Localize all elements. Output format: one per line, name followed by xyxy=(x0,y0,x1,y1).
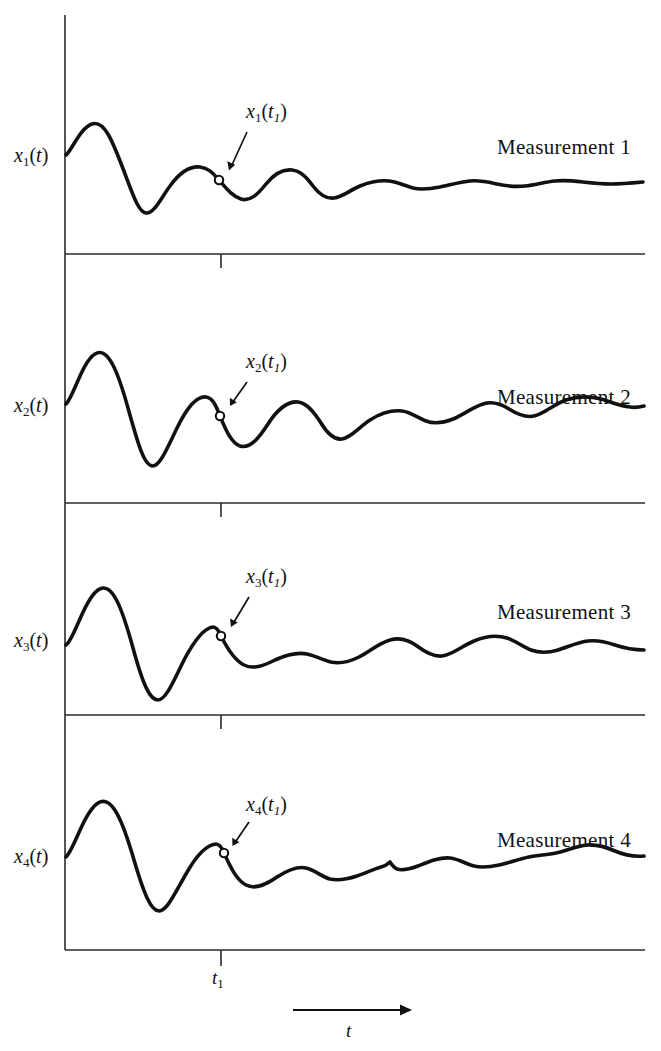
y-axis-label-4-base: x xyxy=(14,845,23,867)
y-axis-label-1-base: x xyxy=(14,144,23,166)
annotation-label-3: x3(t1) xyxy=(246,565,287,591)
annotation-label-1: x1(t1) xyxy=(246,100,287,126)
measurement-label-4: Measurement 4 xyxy=(497,828,631,853)
panel-measurement-4 xyxy=(65,801,645,966)
t1-tick-label: t1 xyxy=(212,967,224,992)
annotation-arrowhead-1 xyxy=(227,161,235,170)
measurement-label-1: Measurement 1 xyxy=(497,135,631,160)
y-axis-label-3-arg: (t) xyxy=(29,629,48,651)
annotation-arrow-3 xyxy=(234,597,250,623)
annotation-label-4-close: ) xyxy=(280,793,287,815)
time-axis-arrowhead xyxy=(400,1005,412,1016)
annotation-label-2-base: x xyxy=(246,350,255,372)
annotation-label-1-close: ) xyxy=(280,100,287,122)
annotation-label-2-close: ) xyxy=(280,350,287,372)
y-axis-label-1: x1(t) xyxy=(14,144,48,170)
annotation-arrowhead-3 xyxy=(230,618,238,627)
annotation-arrow-4 xyxy=(235,822,249,843)
t1-tick-label-sub: 1 xyxy=(217,976,224,991)
annotation-label-3-base: x xyxy=(246,565,255,587)
signal-curve-4 xyxy=(66,801,644,911)
annotation-label-4-base: x xyxy=(246,793,255,815)
annotation-arrow-1 xyxy=(232,132,248,166)
figure-root: x1(t) x1(t1) Measurement 1 x2(t) x2(t1) … xyxy=(0,0,661,1051)
y-axis-label-1-arg: (t) xyxy=(29,144,48,166)
y-axis-label-3-base: x xyxy=(14,629,23,651)
measurement-label-3: Measurement 3 xyxy=(497,600,631,625)
sample-point-marker-4 xyxy=(220,849,228,857)
sample-point-marker-1 xyxy=(215,176,223,184)
annotation-label-4: x4(t1) xyxy=(246,793,287,819)
annotation-label-1-base: x xyxy=(246,100,255,122)
annotation-label-3-close: ) xyxy=(280,565,287,587)
panel-measurement-2 xyxy=(65,353,645,517)
time-axis-arrow-group xyxy=(293,1005,412,1016)
annotation-label-2: x2(t1) xyxy=(246,350,287,376)
y-axis-label-2-arg: (t) xyxy=(29,394,48,416)
y-axis-label-2: x2(t) xyxy=(14,394,48,420)
sample-point-marker-3 xyxy=(217,632,225,640)
y-axis-label-4: x4(t) xyxy=(14,845,48,871)
y-axis-label-4-arg: (t) xyxy=(29,845,48,867)
y-axis-label-2-base: x xyxy=(14,394,23,416)
annotation-arrow-2 xyxy=(233,382,248,403)
time-axis-label: t xyxy=(346,1020,351,1042)
y-axis-label-3: x3(t) xyxy=(14,629,48,655)
measurement-label-2: Measurement 2 xyxy=(497,385,631,410)
sample-point-marker-2 xyxy=(216,412,224,420)
